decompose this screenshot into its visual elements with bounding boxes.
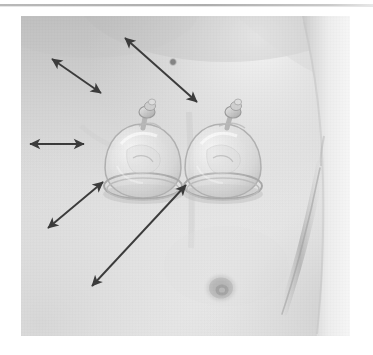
skin-mole [169,58,178,67]
right-nipple [203,272,239,304]
figure-page [0,0,373,355]
clinical-photograph [21,16,350,336]
photograph-canvas [21,16,350,336]
top-horizontal-rule-shadow [0,6,373,7]
